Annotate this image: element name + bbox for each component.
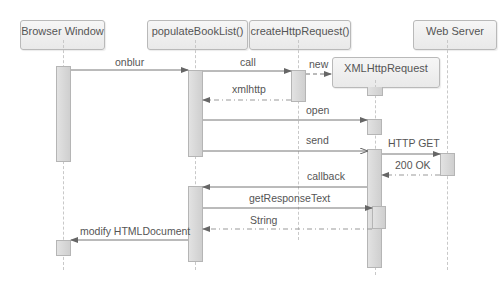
label-call: call (240, 56, 256, 68)
label-string: String (250, 214, 277, 226)
label-callback: callback (307, 170, 345, 182)
label-xmlhttp: xmlhttp (232, 83, 266, 95)
label-new: new (309, 58, 328, 70)
label-200-ok: 200 OK (395, 159, 431, 171)
label-modify-html-document: modify HTMLDocument (80, 225, 190, 237)
label-onblur: onblur (115, 56, 144, 68)
label-send: send (306, 134, 329, 146)
label-http-get: HTTP GET (388, 137, 440, 149)
label-get-response-text: getResponseText (249, 192, 330, 204)
label-open: open (306, 104, 329, 116)
